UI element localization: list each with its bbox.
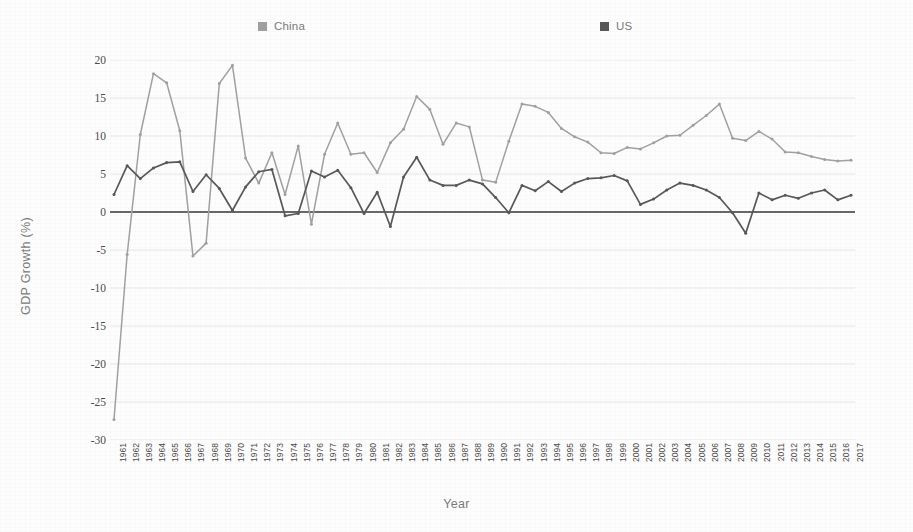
- x-tick-2015: 2015: [828, 443, 838, 462]
- x-tick-2001: 2001: [644, 443, 654, 462]
- x-tick-2016: 2016: [841, 443, 851, 462]
- x-tick-2003: 2003: [670, 443, 680, 462]
- x-tick-1970: 1970: [236, 443, 246, 462]
- x-tick-1969: 1969: [223, 443, 233, 462]
- legend-label-us: US: [616, 20, 632, 32]
- x-tick-1961: 1961: [118, 443, 128, 462]
- x-tick-1983: 1983: [407, 443, 417, 462]
- y-axis-title-text: GDP Growth (%): [19, 217, 33, 315]
- x-tick-1966: 1966: [183, 443, 193, 462]
- x-tick-1965: 1965: [170, 443, 180, 462]
- x-tick-1985: 1985: [433, 443, 443, 462]
- x-axis-title: Year: [0, 497, 913, 511]
- x-tick-1997: 1997: [591, 443, 601, 462]
- x-tick-2006: 2006: [710, 443, 720, 462]
- x-tick-1976: 1976: [315, 443, 325, 462]
- x-tick-2004: 2004: [683, 443, 693, 462]
- x-tick-2017: 2017: [855, 443, 865, 462]
- x-tick-1968: 1968: [210, 443, 220, 462]
- x-tick-1981: 1981: [381, 443, 391, 462]
- x-tick-1996: 1996: [578, 443, 588, 462]
- series-line-us: [114, 157, 851, 233]
- x-tick-1967: 1967: [196, 443, 206, 462]
- x-tick-1998: 1998: [604, 443, 614, 462]
- legend-label-china: China: [274, 20, 305, 32]
- x-tick-1989: 1989: [486, 443, 496, 462]
- x-tick-2013: 2013: [802, 443, 812, 462]
- x-tick-2005: 2005: [697, 443, 707, 462]
- x-tick-2002: 2002: [657, 443, 667, 462]
- x-tick-1964: 1964: [157, 443, 167, 462]
- x-tick-1982: 1982: [394, 443, 404, 462]
- x-tick-1995: 1995: [565, 443, 575, 462]
- chart-svg: [110, 60, 855, 440]
- x-tick-1974: 1974: [289, 443, 299, 462]
- x-tick-2012: 2012: [789, 443, 799, 462]
- x-tick-1980: 1980: [368, 443, 378, 462]
- x-tick-2000: 2000: [631, 443, 641, 462]
- x-tick-1973: 1973: [275, 443, 285, 462]
- series-line-china: [114, 65, 851, 419]
- x-tick-1975: 1975: [302, 443, 312, 462]
- legend-swatch-china: [258, 22, 267, 31]
- y-tick--25: -25: [91, 396, 106, 408]
- y-axis-tick-labels: 20151050-5-10-15-20-25-30: [60, 60, 106, 440]
- gridlines: [110, 60, 855, 440]
- x-tick-1999: 1999: [618, 443, 628, 462]
- x-tick-1977: 1977: [328, 443, 338, 462]
- x-tick-1979: 1979: [354, 443, 364, 462]
- x-tick-2008: 2008: [736, 443, 746, 462]
- x-tick-1988: 1988: [473, 443, 483, 462]
- x-tick-1962: 1962: [131, 443, 141, 462]
- y-axis-title: GDP Growth (%): [14, 0, 38, 532]
- series-points-china: [113, 64, 853, 421]
- x-tick-1984: 1984: [420, 443, 430, 462]
- x-tick-1994: 1994: [552, 443, 562, 462]
- x-tick-1991: 1991: [512, 443, 522, 462]
- x-tick-2007: 2007: [723, 443, 733, 462]
- x-tick-2011: 2011: [776, 443, 786, 461]
- legend-item-china[interactable]: China: [258, 20, 305, 32]
- x-tick-1972: 1972: [262, 443, 272, 462]
- x-tick-1963: 1963: [144, 443, 154, 462]
- x-tick-1971: 1971: [249, 443, 259, 462]
- y-tick-20: 20: [95, 54, 107, 66]
- chart-page: China US GDP Growth (%) 20151050-5-10-15…: [0, 0, 913, 532]
- y-tick-15: 15: [95, 92, 107, 104]
- plot-area: [110, 60, 855, 440]
- x-tick-2010: 2010: [762, 443, 772, 462]
- x-tick-2009: 2009: [749, 443, 759, 462]
- legend-swatch-us: [600, 22, 609, 31]
- y-tick--30: -30: [91, 434, 106, 446]
- y-tick-0: 0: [100, 206, 106, 218]
- x-tick-1993: 1993: [539, 443, 549, 462]
- chart-legend: China US: [0, 20, 913, 42]
- x-tick-2014: 2014: [815, 443, 825, 462]
- y-tick--10: -10: [91, 282, 106, 294]
- y-tick--20: -20: [91, 358, 106, 370]
- x-tick-1987: 1987: [460, 443, 470, 462]
- legend-item-us[interactable]: US: [600, 20, 632, 32]
- x-tick-1990: 1990: [499, 443, 509, 462]
- y-tick--15: -15: [91, 320, 106, 332]
- y-tick-10: 10: [95, 130, 107, 142]
- x-axis-tick-labels: 1961196219631964196519661967196819691970…: [110, 443, 855, 495]
- x-tick-1978: 1978: [341, 443, 351, 462]
- y-tick-5: 5: [100, 168, 106, 180]
- x-tick-1986: 1986: [447, 443, 457, 462]
- x-tick-1992: 1992: [525, 443, 535, 462]
- y-tick--5: -5: [96, 244, 106, 256]
